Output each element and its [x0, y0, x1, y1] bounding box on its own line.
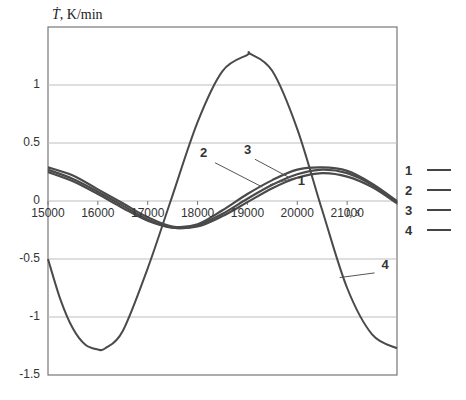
- legend-item-4: 4: [405, 220, 451, 240]
- x-tick-label: 15000: [23, 206, 73, 220]
- curve-label-1: 1: [298, 173, 305, 188]
- y-tick-label: 0.5: [4, 135, 40, 149]
- legend-label: 2: [405, 183, 427, 198]
- annotation-leader-4: [340, 273, 375, 278]
- legend-label: 4: [405, 223, 427, 238]
- curve-label-4: 4: [382, 257, 389, 272]
- curve-label-2: 2: [200, 145, 207, 160]
- y-tick-label: -1: [4, 309, 40, 323]
- legend-swatch: [427, 169, 451, 171]
- x-axis-title: t, s: [346, 205, 360, 220]
- annotation-leader-3: [255, 159, 290, 178]
- x-tick-label: 18000: [173, 206, 223, 220]
- curve-label-3: 3: [244, 142, 251, 157]
- annotation-leader-2: [215, 163, 262, 187]
- y-axis-title: Ṫ, K/min: [52, 7, 103, 23]
- legend-item-3: 3: [405, 200, 451, 220]
- legend-item-1: 1: [405, 160, 451, 180]
- legend-swatch: [427, 209, 451, 211]
- y-tick-label: -1.5: [4, 367, 40, 381]
- y-tick-label: -0.5: [4, 251, 40, 265]
- x-tick-label: 19000: [222, 206, 272, 220]
- legend-swatch: [427, 189, 451, 191]
- legend-item-2: 2: [405, 180, 451, 200]
- x-tick-label: 20000: [272, 206, 322, 220]
- legend-label: 1: [405, 163, 427, 178]
- y-tick-label: 1: [4, 77, 40, 91]
- y-tick-label: 0: [4, 193, 40, 207]
- x-tick-label: 16000: [73, 206, 123, 220]
- chart-plot: [0, 0, 466, 400]
- legend: 1234: [405, 160, 451, 240]
- legend-swatch: [427, 229, 451, 231]
- legend-label: 3: [405, 203, 427, 218]
- x-tick-label: 17000: [123, 206, 173, 220]
